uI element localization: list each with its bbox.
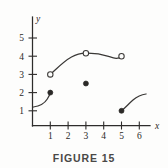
filled-point-1-2 bbox=[48, 90, 53, 95]
x-tick-label-3: 3 bbox=[84, 131, 89, 141]
open-point-1-3 bbox=[48, 72, 53, 77]
filled-point-5-1 bbox=[119, 108, 124, 113]
graph-plot: 1 2 3 4 5 1 2 3 4 5 6 y x bbox=[0, 0, 168, 168]
x-tick-label-4: 4 bbox=[101, 131, 106, 141]
y-tick-label-4: 4 bbox=[19, 52, 24, 62]
figure-container: 1 2 3 4 5 1 2 3 4 5 6 y x FIGURE 15 bbox=[0, 0, 168, 168]
x-tick-label-1: 1 bbox=[48, 131, 53, 141]
filled-point-3-2p5 bbox=[83, 81, 88, 86]
y-tick-label-3: 3 bbox=[19, 70, 24, 80]
x-tick-label-6: 6 bbox=[137, 131, 142, 141]
x-axis-label: x bbox=[154, 121, 160, 131]
open-point-3-4p5 bbox=[83, 51, 88, 56]
y-tick-label-5: 5 bbox=[19, 33, 24, 43]
x-tick-label-2: 2 bbox=[66, 131, 71, 141]
curve-segment-3 bbox=[122, 94, 147, 111]
y-axis-label: y bbox=[35, 14, 41, 24]
figure-caption: FIGURE 15 bbox=[0, 152, 168, 164]
open-point-5-4 bbox=[119, 54, 124, 59]
y-tick-label-2: 2 bbox=[19, 88, 24, 98]
y-tick-label-1: 1 bbox=[19, 106, 24, 116]
x-tick-label-5: 5 bbox=[119, 131, 124, 141]
curve-segment-1 bbox=[33, 93, 50, 107]
